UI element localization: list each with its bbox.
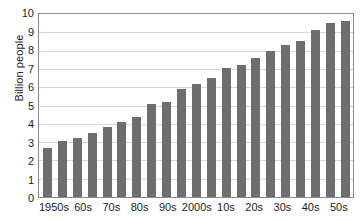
x-axis-tick-label: 20s [240, 201, 268, 213]
y-axis-tick-label: 0 [4, 193, 34, 204]
y-axis-tick-label: 9 [4, 27, 34, 38]
x-axis-tick-label: 30s [268, 201, 296, 213]
x-axis-tick-label: 80s [125, 201, 153, 213]
bar [207, 78, 216, 197]
bar [281, 45, 290, 197]
bar [222, 68, 231, 197]
bar [251, 58, 260, 197]
bar [162, 102, 171, 197]
bar [132, 117, 141, 197]
x-axis-tick-label: 10s [212, 201, 240, 213]
y-axis-tick-label: 10 [4, 8, 34, 19]
x-axis-tick-label: 2000s [182, 201, 212, 213]
x-axis-tick-label: 50s [325, 201, 353, 213]
y-axis-tick-label: 2 [4, 156, 34, 167]
bar [192, 84, 201, 197]
bar [58, 141, 67, 197]
y-axis-tick-label: 4 [4, 119, 34, 130]
y-axis-tick-label: 5 [4, 101, 34, 112]
y-axis-tick-label: 8 [4, 45, 34, 56]
bar [326, 23, 335, 197]
x-axis-tick-labels: 1950s60s70s80s90s2000s10s20s30s40s50s [38, 201, 354, 213]
bar [296, 41, 305, 197]
y-axis-tick-label: 1 [4, 175, 34, 186]
bar [88, 133, 97, 197]
y-axis-tick-label: 6 [4, 82, 34, 93]
bar [177, 89, 186, 197]
bar [237, 65, 246, 197]
bar [266, 51, 275, 197]
y-axis-tick-labels: 109876543210 [0, 0, 34, 211]
plot-area [38, 13, 354, 198]
x-axis-tick-label: 70s [97, 201, 125, 213]
y-axis-tick-label: 3 [4, 138, 34, 149]
bar-series [39, 14, 353, 197]
x-axis-tick-label: 60s [69, 201, 97, 213]
bar [73, 138, 82, 197]
bar [311, 30, 320, 197]
bar-chart: Billion people 109876543210 1950s60s70s8… [0, 0, 362, 221]
bar [341, 21, 350, 197]
x-axis-tick-label: 40s [297, 201, 325, 213]
bar [147, 104, 156, 197]
x-axis-tick-label: 90s [154, 201, 182, 213]
x-axis-tick-label: 1950s [39, 201, 69, 213]
bar [117, 122, 126, 197]
y-axis-tick-label: 7 [4, 64, 34, 75]
bar [43, 148, 52, 197]
bar [103, 127, 112, 197]
